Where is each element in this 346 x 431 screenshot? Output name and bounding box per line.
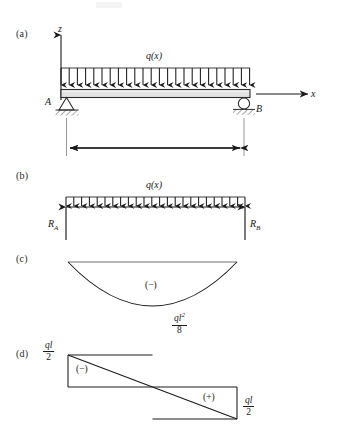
load-label-b: q(x) [146, 179, 162, 190]
span-dimension [67, 118, 245, 156]
support-a-label: A [45, 96, 51, 107]
roller-support-icon [233, 98, 255, 115]
panel-d-graphics [68, 355, 237, 419]
shear-left-denominator: 2 [43, 352, 54, 362]
support-b-label: B [256, 103, 262, 114]
reaction-a-label: RA [48, 218, 58, 232]
reaction-b-label: RB [250, 218, 260, 232]
load-label-a: q(x) [146, 50, 162, 61]
moment-numerator: ql2 [172, 312, 187, 325]
shear-right-value: ql 2 [243, 396, 254, 418]
distributed-load-arrows-a [61, 68, 250, 85]
distributed-load-arrows-b [66, 197, 245, 206]
figure-vector-layer [0, 0, 346, 431]
panel-a-graphics [56, 35, 309, 156]
moment-sign-label: (−) [145, 280, 157, 290]
z-axis-label: z [58, 23, 62, 34]
pin-support-icon [56, 98, 79, 116]
shear-sign-right: (+) [203, 392, 215, 402]
shear-sign-left: (−) [76, 364, 88, 374]
shear-right-denominator: 2 [243, 407, 254, 417]
shear-right-numerator: ql [243, 396, 254, 406]
beam-body [61, 90, 250, 98]
panel-b-graphics [66, 197, 245, 240]
panel-b-tag: (b) [16, 170, 28, 181]
panel-d-tag: (d) [16, 348, 28, 359]
moment-max-value: ql2 8 [172, 312, 187, 336]
beam-diagram-figure: (a) z x q(x) A B (b) q(x) RA RB (c) (−) … [0, 0, 346, 431]
shear-left-numerator: ql [43, 341, 54, 351]
panel-c-tag: (c) [16, 253, 28, 264]
moment-denominator: 8 [172, 326, 187, 336]
moment-exponent: 2 [181, 311, 185, 319]
x-axis-label: x [311, 88, 315, 99]
reaction-a-subscript: A [54, 224, 58, 232]
shear-left-value: ql 2 [43, 341, 54, 363]
panel-a-tag: (a) [16, 28, 28, 39]
reaction-b-subscript: B [256, 224, 260, 232]
